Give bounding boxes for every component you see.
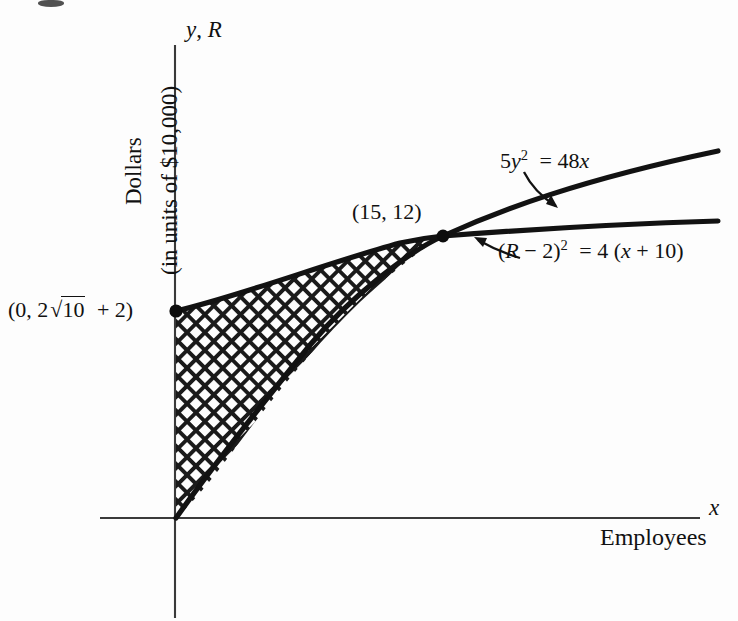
- eq-lower-exponent: 2: [561, 237, 568, 253]
- x-axis-symbol: x: [709, 495, 719, 520]
- y-axis-title-line1: Dollars: [122, 137, 146, 205]
- eq-lower-minus: − 2): [524, 238, 560, 263]
- eq-upper-exponent: 2: [521, 147, 528, 163]
- eq-lower-rhs: = 4 (: [579, 238, 621, 263]
- square-root-icon: √10: [48, 298, 85, 321]
- intersection-point-label: (15, 12): [352, 200, 422, 223]
- eq-upper-coefficient: 5: [500, 148, 511, 173]
- eq-upper-var: y: [511, 148, 521, 173]
- y-intercept-label: (0, 2√10 + 2): [8, 298, 133, 321]
- shaded-region: [176, 236, 443, 518]
- y-intercept-dot: [169, 304, 182, 317]
- eq-lower-rhs-var: x: [621, 238, 631, 263]
- figure-canvas: y, R x Employees Dollars (in units of $1…: [0, 0, 738, 621]
- eq-upper-rhs: = 48: [540, 148, 580, 173]
- y-axis-symbol-label: y, R: [186, 18, 222, 42]
- eq-lower-var: R: [505, 238, 518, 263]
- eq-lower-rhs-tail: + 10): [636, 238, 683, 263]
- y-axis-symbol-separator: ,: [196, 17, 202, 42]
- y-intercept-tail: + 2): [97, 297, 133, 322]
- intersection-dot: [437, 230, 450, 243]
- eq-upper-rhs-var: x: [579, 148, 589, 173]
- x-axis-title: Employees: [600, 525, 707, 550]
- equation-label-parabola-upper: 5y2 = 48x: [500, 148, 589, 172]
- y-intercept-prefix: (0, 2: [8, 297, 48, 322]
- y-axis-symbol: y: [186, 17, 196, 42]
- radicand: 10: [61, 296, 85, 322]
- y-axis-title-line2: (in units of $10,000): [158, 86, 182, 275]
- x-axis-symbol-label: x: [709, 496, 719, 520]
- r-axis-symbol: R: [208, 17, 222, 42]
- equation-label-parabola-lower: (R − 2)2 = 4 (x + 10): [498, 238, 684, 262]
